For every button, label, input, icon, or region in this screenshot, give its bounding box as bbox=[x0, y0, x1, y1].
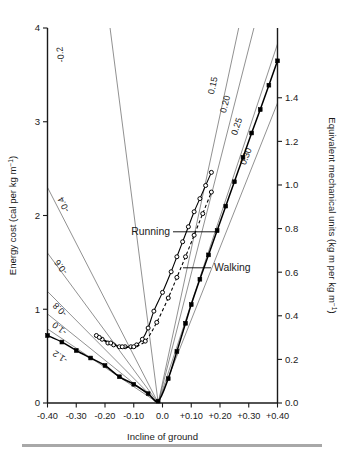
chart-labels: -0.40-0.30-0.20-0.100.0+0.10+0.20+0.30+0… bbox=[7, 22, 338, 442]
y-right-tick-label: 0.0 bbox=[285, 397, 298, 408]
y-left-tick-label: 1 bbox=[35, 304, 40, 315]
efficiency-line-0-20 bbox=[158, 28, 254, 403]
marker-filled-square bbox=[60, 340, 64, 344]
efficiency-fan-lines: -0.2-0.4-0.6-0.8-1.0-1.20.150.200.250.30 bbox=[48, 28, 278, 403]
marker-open-circle bbox=[120, 345, 124, 349]
running-label: Running bbox=[131, 226, 170, 237]
marker-filled-square bbox=[276, 59, 280, 63]
marker-filled-square bbox=[258, 108, 262, 112]
efficiency-line-0-15 bbox=[158, 28, 239, 403]
marker-filled-square bbox=[224, 204, 228, 208]
efficiency-label--0.6: -0.6 bbox=[52, 258, 69, 276]
x-tick-label: 0.0 bbox=[156, 411, 169, 421]
footer-divider bbox=[22, 444, 322, 447]
x-tick-label: +0.20 bbox=[208, 411, 231, 421]
efficiency-label-0.15: 0.15 bbox=[206, 76, 219, 95]
marker-open-circle bbox=[181, 240, 185, 244]
series-line-running bbox=[96, 172, 211, 347]
marker-filled-square bbox=[46, 334, 50, 338]
marker-open-circle bbox=[169, 270, 173, 274]
x-tick-label: -0.10 bbox=[123, 411, 144, 421]
efficiency-line--0-4 bbox=[48, 187, 159, 403]
efficiency-label-0.20: 0.20 bbox=[218, 94, 232, 113]
marker-open-circle bbox=[155, 320, 159, 324]
marker-open-circle bbox=[166, 296, 170, 300]
y-right-tick-label: 1.4 bbox=[285, 92, 299, 103]
marker-open-circle bbox=[184, 255, 188, 259]
x-axis-title: Incline of ground bbox=[127, 431, 198, 442]
y-right-tick-label: 1.0 bbox=[285, 179, 298, 190]
axes bbox=[43, 28, 282, 408]
y-right-tick-label: 0.4 bbox=[285, 310, 299, 321]
marker-open-circle bbox=[192, 210, 196, 214]
efficiency-label-0.25: 0.25 bbox=[229, 117, 244, 137]
marker-open-circle bbox=[204, 184, 208, 188]
marker-open-circle bbox=[201, 212, 205, 216]
marker-open-circle bbox=[146, 326, 150, 330]
y-axis-left-title: Energy cost (cal per kg m−1) bbox=[7, 156, 18, 276]
marker-open-circle bbox=[198, 197, 202, 201]
energy-cost-incline-chart: -0.2-0.4-0.6-0.8-1.0-1.20.150.200.250.30… bbox=[0, 0, 342, 455]
y-left-tick-label: 0 bbox=[35, 397, 40, 408]
marker-open-circle bbox=[143, 339, 147, 343]
x-tick-label: +0.40 bbox=[266, 411, 289, 421]
efficiency-label--0.8: -0.8 bbox=[51, 300, 69, 318]
y-axis-right-title: Equivalent mechanical units (kg m per kg… bbox=[327, 117, 338, 313]
marker-open-circle bbox=[175, 275, 179, 279]
marker-filled-square bbox=[132, 382, 136, 386]
marker-filled-square bbox=[184, 321, 188, 325]
x-tick-label: +0.30 bbox=[237, 411, 260, 421]
marker-filled-square bbox=[189, 303, 193, 307]
marker-filled-square bbox=[103, 364, 107, 368]
efficiency-line-0-30 bbox=[158, 103, 277, 403]
marker-filled-square bbox=[267, 83, 271, 87]
marker-open-circle bbox=[97, 335, 101, 339]
efficiency-label--0.4: -0.4 bbox=[56, 195, 72, 213]
y-right-tick-label: 0.6 bbox=[285, 267, 298, 278]
efficiency-label--1.2: -1.2 bbox=[51, 348, 69, 365]
x-tick-label: -0.20 bbox=[95, 411, 116, 421]
efficiency-label--1.0: -1.0 bbox=[50, 320, 68, 338]
y-right-tick-label: 0.2 bbox=[285, 354, 298, 365]
marker-filled-square bbox=[232, 180, 236, 184]
marker-open-circle bbox=[161, 290, 165, 294]
marker-open-circle bbox=[109, 341, 113, 345]
marker-filled-square bbox=[241, 155, 245, 159]
figure-container: -0.2-0.4-0.6-0.8-1.0-1.20.150.200.250.30… bbox=[0, 0, 342, 455]
walking-label: Walking bbox=[214, 262, 251, 273]
efficiency-label--0.2: -0.2 bbox=[54, 46, 66, 63]
marker-filled-square bbox=[198, 277, 202, 281]
marker-filled-square bbox=[74, 349, 78, 353]
marker-filled-square bbox=[166, 377, 170, 381]
marker-open-circle bbox=[192, 233, 196, 237]
x-tick-label: -0.40 bbox=[37, 411, 58, 421]
y-left-tick-label: 3 bbox=[35, 116, 40, 127]
x-tick-label: -0.30 bbox=[66, 411, 87, 421]
marker-open-circle bbox=[209, 170, 213, 174]
marker-open-circle bbox=[186, 225, 190, 229]
marker-filled-square bbox=[117, 375, 121, 379]
marker-filled-square bbox=[156, 399, 160, 403]
efficiency-line-0-25 bbox=[158, 44, 277, 403]
marker-filled-square bbox=[207, 253, 211, 257]
marker-open-circle bbox=[175, 255, 179, 259]
marker-filled-square bbox=[250, 131, 254, 135]
y-right-tick-label: 0.8 bbox=[285, 223, 298, 234]
x-tick-label: +0.10 bbox=[180, 411, 203, 421]
y-right-tick-label: 1.2 bbox=[285, 136, 298, 147]
marker-filled-square bbox=[89, 356, 93, 360]
marker-filled-square bbox=[175, 350, 179, 354]
y-left-tick-label: 4 bbox=[35, 22, 41, 33]
marker-open-circle bbox=[152, 309, 156, 313]
y-left-tick-label: 2 bbox=[35, 210, 40, 221]
marker-open-circle bbox=[209, 190, 213, 194]
marker-open-circle bbox=[132, 345, 136, 349]
marker-filled-square bbox=[146, 392, 150, 396]
